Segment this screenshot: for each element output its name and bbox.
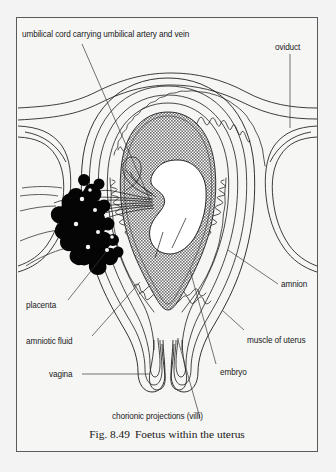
leader-umbilical-cord xyxy=(82,44,150,200)
label-vagina: vagina xyxy=(49,370,73,380)
uterus-cross-section-diagram xyxy=(0,0,336,472)
leader-amnion xyxy=(228,250,278,284)
figure-page: umbilical cord carrying umbilical artery… xyxy=(0,0,336,472)
figure-caption: Fig. 8.49Foetus within the uterus xyxy=(16,428,318,440)
figure-title: Foetus within the uterus xyxy=(135,428,245,440)
label-placenta: placenta xyxy=(26,301,56,311)
oviduct-right xyxy=(265,126,317,272)
leader-muscle-of-uterus xyxy=(222,310,244,330)
leader-chorionic xyxy=(178,340,200,418)
label-umbilical-cord: umbilical cord carrying umbilical artery… xyxy=(22,30,189,40)
label-embryo: embryo xyxy=(220,368,247,378)
label-chorionic-projections: chorionic projections (villi) xyxy=(112,412,203,422)
label-amniotic-fluid: amniotic fluid xyxy=(26,337,72,347)
label-oviduct: oviduct xyxy=(275,43,300,53)
cervix-vagina xyxy=(149,340,186,390)
label-amnion: amnion xyxy=(281,280,307,290)
placenta-mass xyxy=(51,174,124,275)
label-muscle-of-uterus: muscle of uterus xyxy=(247,336,305,346)
figure-number: Fig. 8.49 xyxy=(89,428,130,440)
leader-amniotic-fluid xyxy=(92,282,140,336)
